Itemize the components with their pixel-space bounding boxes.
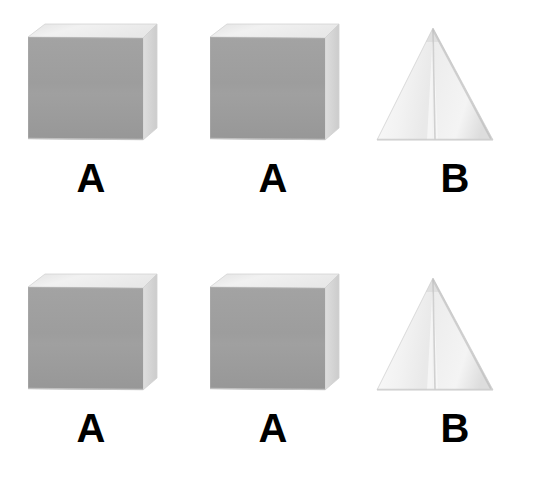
stimulus-cell-r1c2[interactable]: A xyxy=(182,0,364,239)
cube-figure xyxy=(26,12,158,144)
stimulus-label: B xyxy=(364,158,546,198)
shape-pyramid-r1c3 xyxy=(364,0,546,150)
stimulus-cell-r2c1[interactable]: A xyxy=(0,250,182,479)
stimulus-grid: A xyxy=(0,0,546,479)
cube-figure xyxy=(208,12,340,144)
stimulus-label: A xyxy=(0,408,182,448)
pyramid-figure xyxy=(369,262,501,394)
stimulus-label: A xyxy=(182,158,364,198)
shape-cube-r1c2 xyxy=(182,0,364,150)
stimulus-label: A xyxy=(0,158,182,198)
shape-cube-r2c2 xyxy=(182,250,364,400)
stimulus-label: B xyxy=(364,408,546,448)
stimulus-cell-r2c2[interactable]: A xyxy=(182,250,364,479)
shape-cube-r2c1 xyxy=(0,250,182,400)
stimulus-cell-r1c3[interactable]: B xyxy=(364,0,546,239)
stimulus-cell-r1c1[interactable]: A xyxy=(0,0,182,239)
shape-pyramid-r2c3 xyxy=(364,250,546,400)
shape-cube-r1c1 xyxy=(0,0,182,150)
pyramid-figure xyxy=(369,12,501,144)
cube-figure xyxy=(208,262,340,394)
stimulus-cell-r2c3[interactable]: B xyxy=(364,250,546,479)
stimulus-label: A xyxy=(182,408,364,448)
cube-figure xyxy=(26,262,158,394)
